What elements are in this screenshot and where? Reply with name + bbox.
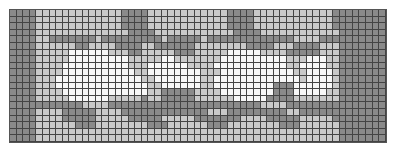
grid-cell [109,69,116,76]
grid-cell [181,96,188,103]
grid-cell [135,116,142,123]
grid-cell [214,10,221,17]
grid-cell [89,129,96,136]
grid-cell [280,122,287,129]
grid-cell [346,10,353,17]
grid-cell [221,50,228,57]
grid-cell [89,10,96,17]
grid-cell [181,76,188,83]
grid-cell [340,83,347,90]
grid-cell [359,17,366,24]
grid-cell [122,56,129,63]
grid-cell [36,109,43,116]
grid-cell [162,129,169,136]
grid-cell [155,56,162,63]
grid-cell [122,30,129,37]
grid-cell [188,102,195,109]
grid-cell [23,43,30,50]
grid-cell [287,36,294,43]
grid-cell [83,89,90,96]
grid-cell [43,30,50,37]
grid-cell [142,109,149,116]
grid-cell [346,96,353,103]
grid-cell [201,83,208,90]
grid-cell [188,89,195,96]
grid-cell [366,116,373,123]
grid-cell [201,10,208,17]
grid-cell [102,116,109,123]
grid-cell [43,56,50,63]
grid-cell [83,36,90,43]
grid-cell [23,36,30,43]
grid-cell [327,56,334,63]
grid-cell [188,10,195,17]
grid-cell [267,10,274,17]
grid-cell [17,122,24,129]
grid-cell [346,122,353,129]
grid-cell [241,17,248,24]
grid-cell [129,30,136,37]
grid-cell [135,56,142,63]
grid-cell [89,36,96,43]
grid-cell [135,30,142,37]
grid-cell [30,63,37,70]
grid-cell [50,30,57,37]
grid-cell [116,56,123,63]
grid-cell [261,109,268,116]
grid-cell [274,36,281,43]
grid-cell [274,43,281,50]
grid-cell [195,96,202,103]
grid-cell [10,63,17,70]
grid-cell [69,63,76,70]
grid-cell [307,43,314,50]
grid-cell [214,63,221,70]
grid-cell [333,109,340,116]
grid-cell [254,10,261,17]
grid-cell [188,50,195,57]
grid-cell [17,69,24,76]
grid-cell [175,109,182,116]
grid-cell [221,69,228,76]
grid-cell [373,83,380,90]
grid-cell [50,56,57,63]
grid-cell [89,96,96,103]
grid-cell [214,109,221,116]
grid-cell [102,122,109,129]
grid-cell [201,122,208,129]
grid-cell [56,76,63,83]
grid-cell [17,83,24,90]
grid-cell [56,89,63,96]
grid-cell [188,116,195,123]
grid-cell [195,83,202,90]
grid-cell [50,63,57,70]
grid-cell [122,17,129,24]
grid-cell [17,30,24,37]
grid-cell [50,89,57,96]
grid-cell [116,10,123,17]
grid-cell [241,89,248,96]
grid-cell [373,10,380,17]
grid-cell [76,30,83,37]
grid-cell [116,116,123,123]
grid-cell [135,129,142,136]
grid-cell [181,10,188,17]
grid-cell [333,69,340,76]
grid-cell [247,50,254,57]
grid-cell [287,17,294,24]
grid-cell [43,50,50,57]
grid-cell [129,36,136,43]
grid-cell [254,43,261,50]
grid-cell [287,30,294,37]
grid-cell [228,10,235,17]
grid-cell [247,89,254,96]
grid-cell [221,76,228,83]
grid-cell [109,23,116,30]
grid-cell [214,96,221,103]
grid-cell [122,63,129,70]
grid-cell [135,109,142,116]
grid-cell [366,129,373,136]
grid-cell [148,76,155,83]
grid-cell [89,116,96,123]
grid-cell [122,109,129,116]
grid-cell [168,36,175,43]
